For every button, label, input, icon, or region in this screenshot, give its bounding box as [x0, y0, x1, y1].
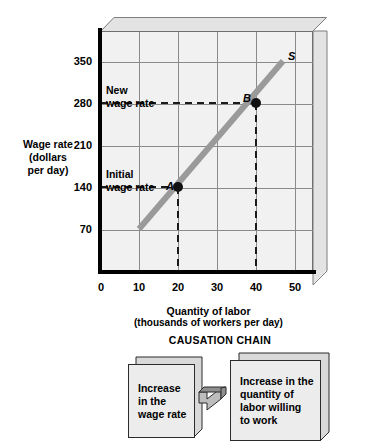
supply-curve-overlay: [101, 31, 313, 271]
x-tick-label: 0: [89, 281, 113, 293]
effect-box-line-1: Increase in the: [240, 375, 314, 388]
annotation-initial-wage-rate: Initial wage rate: [106, 168, 154, 193]
plot-3d-right-outline: [312, 30, 328, 286]
x-tick-label: 50: [283, 281, 307, 293]
annotation-new-wage-rate-line-2: wage rate: [106, 97, 154, 110]
x-tick-label: 30: [205, 281, 229, 293]
x-axis-title-sub: (thousands of workers per day): [86, 317, 331, 329]
x-tick-label: 10: [127, 281, 151, 293]
y-axis: [98, 28, 102, 274]
y-tick-label: 280: [58, 97, 92, 109]
y-axis-title-sub-1: (dollars: [4, 151, 92, 164]
point-b-marker: [251, 98, 261, 108]
x-axis-title-main: Quantity of labor: [86, 305, 331, 317]
figure-supply-of-labor: S A B 350 280 210 140 70 0 10 20 30 40 5…: [0, 0, 366, 443]
x-tick-label: 40: [244, 281, 268, 293]
cause-box-text: Increase in the wage rate: [129, 382, 186, 421]
causation-chain-title: CAUSATION CHAIN: [150, 334, 290, 346]
supply-line: [139, 61, 283, 229]
y-axis-title-main: Wage rate: [4, 138, 92, 151]
cut-off-title: [78, 0, 248, 3]
annotation-initial-wage-rate-line-2: wage rate: [106, 181, 154, 194]
effect-box-face: Increase in the quantity of labor willin…: [230, 360, 321, 441]
y-tick-label: 70: [58, 223, 92, 235]
effect-box-text: Increase in the quantity of labor willin…: [231, 375, 314, 427]
cause-box-face: Increase in the wage rate: [128, 364, 195, 438]
cause-box-line-2: in the: [138, 395, 186, 408]
effect-box-line-4: to work: [240, 414, 314, 427]
x-tick-label: 20: [166, 281, 190, 293]
y-axis-title-sub-2: per day): [4, 164, 92, 177]
y-tick-label: 350: [58, 55, 92, 67]
effect-box: Increase in the quantity of labor willin…: [230, 352, 330, 442]
supply-curve-label: S: [288, 50, 295, 62]
cause-box-line-1: Increase: [138, 382, 186, 395]
effect-box-line-2: quantity of: [240, 388, 314, 401]
point-a-marker: [173, 182, 183, 192]
effect-box-line-3: labor willing: [240, 401, 314, 414]
cause-box: Increase in the wage rate: [128, 356, 203, 438]
annotation-new-wage-rate-line-1: New: [106, 84, 154, 97]
point-b-label: B: [243, 92, 251, 104]
annotation-new-wage-rate: New wage rate: [106, 84, 154, 109]
x-axis-title: Quantity of labor (thousands of workers …: [86, 305, 331, 329]
x-axis: [98, 270, 316, 274]
y-axis-title: Wage rate (dollars per day): [4, 138, 92, 177]
cause-box-line-3: wage rate: [138, 408, 186, 421]
annotation-initial-wage-rate-line-1: Initial: [106, 168, 154, 181]
point-a-label: A: [166, 180, 174, 192]
y-tick-label: 140: [58, 181, 92, 193]
plot-3d-top-outline: [100, 17, 327, 32]
